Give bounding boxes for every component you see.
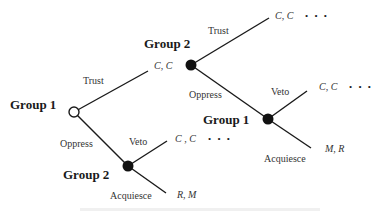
- action-label-upper-trust: Trust: [208, 25, 229, 36]
- action-label-lower-veto: Veto: [129, 136, 147, 147]
- node-lower-group2: [123, 161, 134, 172]
- action-label-root-oppress: Oppress: [60, 138, 93, 149]
- game-tree-diagram: Group 1 Group 2 Group 2 Group 1 Trust Op…: [0, 0, 379, 214]
- payoff-root-trust: C, C: [154, 60, 173, 71]
- action-label-root-trust: Trust: [83, 75, 104, 86]
- figure-caption-faded: [80, 208, 320, 211]
- player-label-upper: Group 2: [144, 36, 190, 51]
- player-label-lower: Group 2: [63, 167, 109, 182]
- continuation-upper-trust: • • •: [305, 11, 329, 21]
- node-root-open: [69, 107, 79, 117]
- action-label-inner-acquiesce: Acquiesce: [264, 153, 306, 164]
- payoff-lower-veto: C , C: [175, 133, 196, 144]
- payoff-upper-trust: C, C: [275, 10, 294, 21]
- action-label-lower-acquiesce: Acquiesce: [110, 190, 152, 201]
- edge-upper-trust: [191, 18, 269, 65]
- player-label-root: Group 1: [10, 97, 56, 112]
- action-label-upper-oppress: Oppress: [189, 89, 222, 100]
- edge-lower-acquiesce: [128, 166, 166, 193]
- node-inner-group1: [263, 114, 274, 125]
- edge-inner-acquiesce: [268, 119, 311, 148]
- continuation-lower-veto: • • •: [208, 134, 232, 144]
- payoff-inner-veto: C, C: [319, 81, 338, 92]
- node-upper-group2: [186, 60, 197, 71]
- payoff-lower-acquiesce: R, M: [176, 189, 197, 200]
- payoff-inner-acquiesce: M, R: [324, 143, 344, 154]
- action-label-inner-veto: Veto: [271, 86, 289, 97]
- player-label-inner: Group 1: [203, 112, 249, 127]
- continuation-inner-veto: • • •: [349, 82, 373, 92]
